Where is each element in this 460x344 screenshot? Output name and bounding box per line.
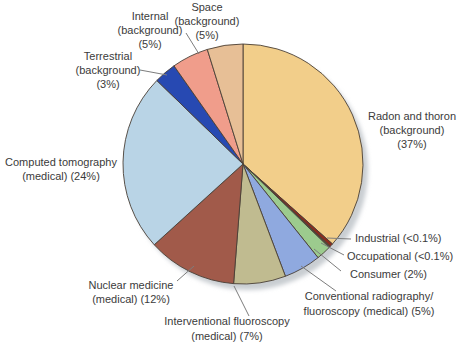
slice-label-line: (background) [380, 124, 445, 136]
slice-label-space-background: Space(background)(5%) [175, 1, 240, 41]
slice-label-line: fluoroscopy (medical) (5%) [304, 305, 435, 317]
slice-label-line: (medical) (12%) [92, 293, 170, 305]
slice-label-interventional-fluoroscopy-medical: Interventional fluoroscopy(medical) (7%) [164, 315, 290, 342]
slice-label-industrial: Industrial (<0.1%) [355, 232, 442, 244]
slice-label-line: Space [191, 1, 222, 13]
slice-label-line: Nuclear medicine [89, 279, 174, 291]
slice-label-line: Radon and thoron [368, 110, 456, 122]
slice-label-line: (background) [118, 24, 183, 36]
slice-label-line: Terrestrial [84, 50, 132, 62]
slice-label-computed-tomography-medical: Computed tomography(medical) (24%) [5, 156, 117, 182]
slice-label-line: Industrial (<0.1%) [355, 232, 442, 244]
slice-label-terrestrial-background: Terrestrial(background)(3%) [76, 50, 141, 90]
slice-label-nuclear-medicine-medical: Nuclear medicine(medical) (12%) [89, 279, 174, 305]
slice-label-line: (5%) [138, 38, 161, 50]
slice-label-internal-background: Internal(background)(5%) [118, 10, 183, 50]
pie-chart: Radon and thoron(background)(37%)Industr… [0, 0, 460, 344]
slice-label-line: Internal [132, 10, 169, 22]
slice-label-line: (3%) [96, 78, 119, 90]
leader-line-terrestrial-background [140, 70, 167, 75]
slice-label-line: (medical) (24%) [22, 170, 100, 182]
slice-label-line: Conventional radiography/ [305, 290, 434, 302]
slice-label-line: Consumer (2%) [350, 268, 427, 280]
slice-label-line: (background) [175, 15, 240, 27]
slice-label-line: Interventional fluoroscopy [164, 315, 290, 327]
leader-line-interventional-fluoroscopy-medical [234, 286, 249, 316]
slice-label-line: Computed tomography [5, 156, 117, 168]
slice-label-radon-and-thoron-background: Radon and thoron(background)(37%) [368, 110, 456, 150]
slice-label-conventional-radiography-fluoroscopy-medical: Conventional radiography/fluoroscopy (me… [304, 290, 435, 317]
slice-label-line: Occupational (<0.1%) [347, 250, 453, 262]
slice-label-consumer: Consumer (2%) [350, 268, 427, 280]
slice-label-line: (5%) [195, 29, 218, 41]
slice-label-occupational: Occupational (<0.1%) [347, 250, 453, 262]
slice-label-line: (37%) [397, 138, 426, 150]
figure-canvas: Radon and thoron(background)(37%)Industr… [0, 0, 460, 344]
leader-line-conventional-radiography-fluoroscopy-medical [301, 266, 336, 291]
slice-label-line: (medical) (7%) [191, 330, 263, 342]
slice-label-line: (background) [76, 64, 141, 76]
pie-slice-layer [123, 44, 363, 284]
